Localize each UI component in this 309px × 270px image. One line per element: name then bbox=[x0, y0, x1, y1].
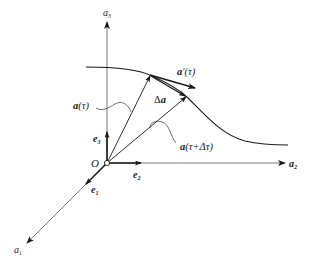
axis-a2-label: a2 bbox=[289, 158, 297, 170]
curve bbox=[86, 67, 288, 145]
leader-a-tau bbox=[96, 102, 131, 112]
basis-e3-label: e3 bbox=[93, 133, 100, 145]
vector-delta-a bbox=[151, 76, 185, 96]
axis-a1-label: a1 bbox=[14, 244, 22, 256]
axes bbox=[27, 22, 285, 243]
origin-point bbox=[104, 160, 109, 165]
label-a-tau-dt: a(τ+Δτ) bbox=[180, 141, 214, 153]
leader-a-tau-dt bbox=[150, 121, 176, 143]
label-derivative: a′(τ) bbox=[177, 66, 196, 78]
vector-derivative-diagram: a3 a2 a1 O e3 e2 e1 a(τ) a(τ+Δτ) Δa a′(τ… bbox=[0, 0, 309, 270]
vector-a-tau bbox=[107, 76, 150, 163]
axis-a3-label: a3 bbox=[103, 7, 111, 19]
label-delta-a: Δa bbox=[154, 94, 166, 105]
label-a-tau: a(τ) bbox=[73, 100, 90, 112]
basis-e2-label: e2 bbox=[133, 169, 140, 181]
origin-label: O bbox=[91, 157, 99, 169]
vector-a-tau-dt bbox=[107, 97, 186, 163]
basis-e1-label: e1 bbox=[91, 184, 98, 196]
